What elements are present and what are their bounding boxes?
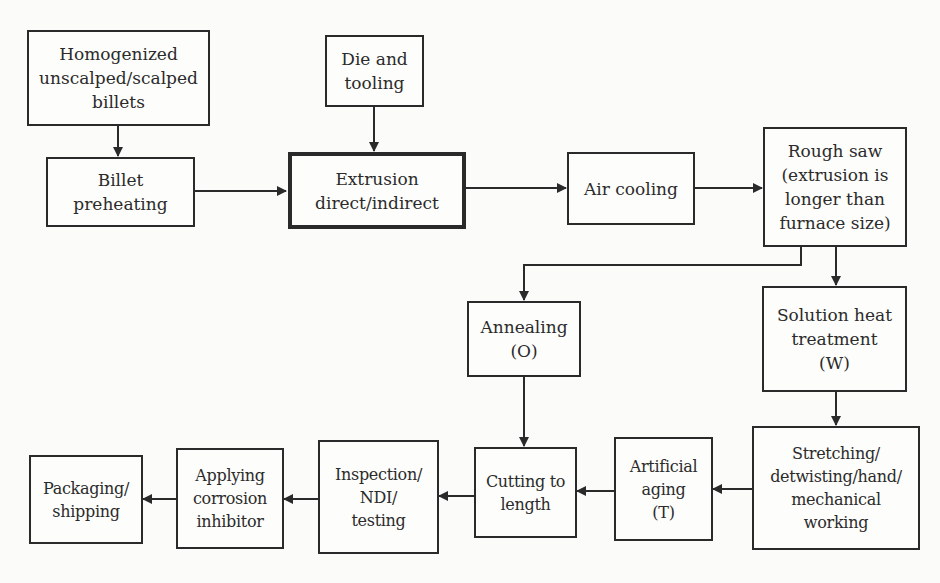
node-applying-corrosion-inhibitor: Applying corrosion inhibitor — [176, 448, 284, 549]
node-homogenized-billets: Homogenized unscalped/scalped billets — [27, 30, 210, 126]
node-label: Homogenized unscalped/scalped billets — [39, 42, 198, 114]
node-cutting-to-length: Cutting to length — [474, 447, 577, 538]
node-die-and-tooling: Die and tooling — [325, 35, 424, 107]
node-solution-heat-treatment: Solution heat treatment (W) — [762, 286, 907, 392]
process-flow-diagram: Homogenized unscalped/scalped billets Bi… — [0, 0, 940, 583]
node-label: Solution heat treatment (W) — [777, 303, 892, 375]
node-air-cooling: Air cooling — [567, 152, 695, 225]
node-label: Inspection/ NDI/ testing — [335, 463, 422, 532]
arrow-roughsaw-to-annealing — [524, 246, 801, 300]
node-label: Rough saw (extrusion is longer than furn… — [779, 139, 890, 235]
node-label: Cutting to length — [486, 470, 565, 516]
node-label: Annealing (O) — [480, 315, 567, 363]
node-label: Die and tooling — [341, 47, 408, 95]
node-rough-saw: Rough saw (extrusion is longer than furn… — [763, 127, 907, 247]
node-billet-preheating: Billet preheating — [46, 157, 195, 227]
node-label: Packaging/ shipping — [43, 477, 129, 523]
node-label: Extrusion direct/indirect — [315, 167, 439, 215]
node-label: Billet preheating — [73, 168, 167, 216]
node-label: Artificial aging (T) — [630, 455, 698, 524]
node-artificial-aging: Artificial aging (T) — [614, 437, 713, 541]
node-label: Stretching/ detwisting/hand/ mechanical … — [770, 442, 902, 534]
node-label: Air cooling — [584, 177, 678, 201]
node-annealing: Annealing (O) — [467, 301, 581, 377]
node-inspection: Inspection/ NDI/ testing — [318, 440, 439, 554]
node-label: Applying corrosion inhibitor — [193, 464, 267, 533]
node-stretching: Stretching/ detwisting/hand/ mechanical … — [752, 426, 920, 550]
node-packaging-shipping: Packaging/ shipping — [29, 455, 143, 544]
node-extrusion: Extrusion direct/indirect — [288, 152, 466, 229]
